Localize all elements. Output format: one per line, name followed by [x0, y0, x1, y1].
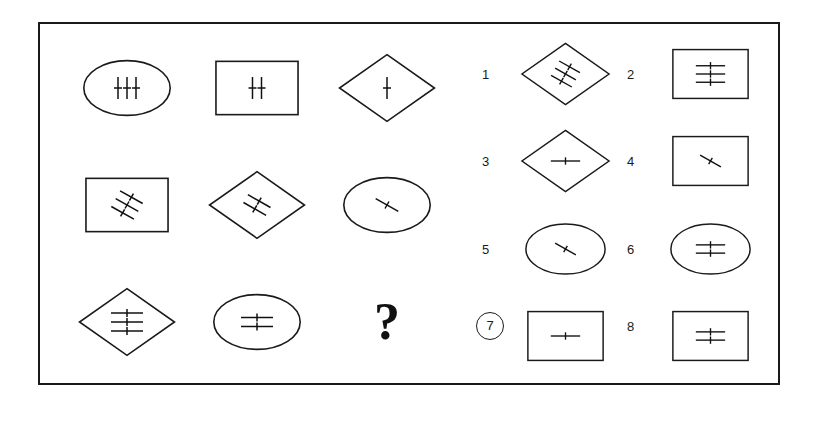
ellipse-figure-icon — [333, 168, 441, 242]
option-4[interactable]: 4 — [621, 118, 766, 206]
diamond-figure-icon[interactable] — [516, 127, 615, 195]
matrix-cell-4 — [62, 147, 192, 264]
diamond-figure-icon — [73, 285, 181, 359]
matrix-cell-6 — [322, 147, 452, 264]
option-2[interactable]: 2 — [621, 30, 766, 118]
rectangle-figure-icon[interactable] — [516, 302, 615, 370]
ellipse-figure-icon — [203, 285, 311, 359]
puzzle-page: ? 12345678 — [0, 0, 814, 429]
options-grid: 12345678 — [476, 30, 766, 380]
option-6[interactable]: 6 — [621, 205, 766, 293]
matrix-cell-missing: ? — [322, 263, 452, 380]
rectangle-figure-icon — [203, 51, 311, 125]
matrix-cell-3 — [322, 30, 452, 147]
matrix-cell-1 — [62, 30, 192, 147]
ellipse-figure-icon[interactable] — [516, 215, 615, 283]
ellipse-figure-icon — [73, 51, 181, 125]
rectangle-figure-icon[interactable] — [661, 127, 760, 195]
option-5[interactable]: 5 — [476, 205, 621, 293]
option-label-selected-7[interactable]: 7 — [476, 312, 504, 340]
option-label-1[interactable]: 1 — [482, 67, 489, 80]
question-mark: ? — [374, 296, 400, 348]
matrix-cell-7 — [62, 263, 192, 380]
option-label-5[interactable]: 5 — [482, 242, 489, 255]
diamond-figure-icon[interactable] — [516, 40, 615, 108]
matrix-cell-8 — [192, 263, 322, 380]
option-label-4[interactable]: 4 — [627, 155, 634, 168]
rectangle-figure-icon[interactable] — [661, 40, 760, 108]
option-label-2[interactable]: 2 — [627, 67, 634, 80]
option-label-8[interactable]: 8 — [627, 319, 634, 332]
matrix-cell-5 — [192, 147, 322, 264]
option-7[interactable]: 7 — [476, 293, 621, 381]
diamond-figure-icon — [203, 168, 311, 242]
rectangle-figure-icon[interactable] — [661, 302, 760, 370]
ellipse-figure-icon[interactable] — [661, 215, 760, 283]
matrix-cell-2 — [192, 30, 322, 147]
option-1[interactable]: 1 — [476, 30, 621, 118]
puzzle-frame: ? 12345678 — [38, 22, 780, 385]
option-label-3[interactable]: 3 — [482, 155, 489, 168]
option-label-6[interactable]: 6 — [627, 242, 634, 255]
diamond-figure-icon — [333, 51, 441, 125]
option-3[interactable]: 3 — [476, 118, 621, 206]
matrix-grid: ? — [62, 30, 452, 380]
option-8[interactable]: 8 — [621, 293, 766, 381]
rectangle-figure-icon — [73, 168, 181, 242]
